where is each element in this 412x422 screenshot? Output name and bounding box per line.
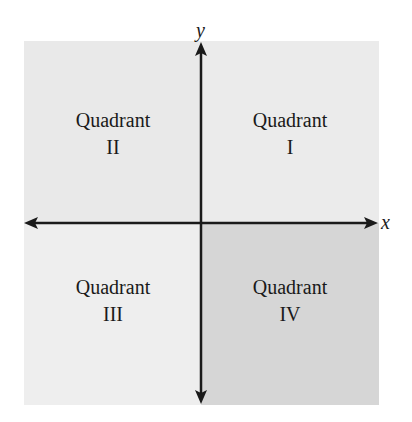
y-axis-label: y — [196, 20, 205, 40]
x-axis-label: x — [381, 212, 390, 232]
axes — [0, 0, 412, 422]
